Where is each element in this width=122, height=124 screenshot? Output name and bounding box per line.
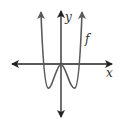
y-axis-label: y [64, 10, 72, 24]
x-axis-label: x [106, 66, 113, 80]
curve-label: f [84, 32, 92, 46]
function-graph: y f x [0, 0, 122, 124]
